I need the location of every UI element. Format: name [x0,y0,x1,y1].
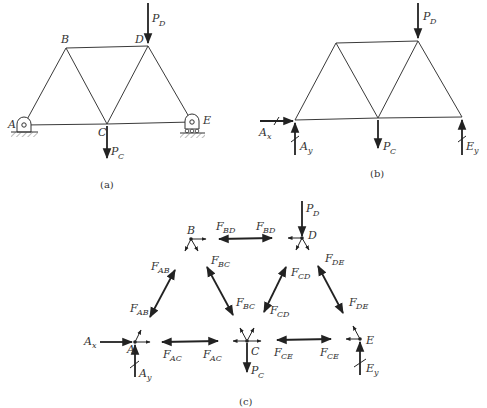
label-fde-bottom: F DE [348,296,368,311]
label-fac-left: F AC [162,348,182,363]
member-ac [24,124,107,125]
member-ce [378,117,462,118]
member-ce-force [277,339,331,340]
member-ab [295,43,336,120]
svg-text:AC: AC [209,354,222,363]
member-ac-force [162,341,218,342]
label-pd: P D [151,12,166,28]
label-fab-bottom: F AB [129,302,149,317]
member-de-force [318,266,343,313]
joint-label-b: B [60,33,69,46]
label-fbc-bottom: F BC [235,296,255,311]
caption-a: (a) [100,179,114,190]
joint-label-a: A [7,118,16,131]
label-ay: A y [299,140,313,155]
joint-label-d: D [134,33,144,46]
svg-text:y: y [146,373,152,382]
label-ey: E y [465,140,479,155]
svg-text:A: A [138,367,147,380]
label-pd: P D [422,10,437,26]
svg-text:C: C [258,371,264,380]
roller-support-icon [180,114,205,138]
member-bd-force [219,238,272,239]
label-ay: A y [138,367,152,382]
member-de [418,41,462,117]
truss-figure: A B C D E P D P C (a) A x A [0,0,487,408]
label-fbd-right: F BD [255,220,276,235]
panel-b-fbd: A x A y E y P D P C (b) [258,3,479,179]
panel-a-truss: A B C D E P D P C (a) [7,3,211,190]
svg-text:x: x [92,341,97,350]
svg-text:DE: DE [331,258,344,267]
member-cd [107,46,148,124]
svg-text:D: D [312,209,320,218]
member-bc [66,48,107,124]
label-ax: A x [83,335,97,350]
joint-c-fbd: C P C [233,328,264,380]
member-cd [378,41,418,118]
svg-text:CE: CE [327,352,339,361]
joint-label-c: C [251,345,260,358]
member-ac [295,118,378,120]
svg-text:C: C [390,147,396,156]
caption-c: (c) [239,396,253,407]
caption-b: (b) [370,168,384,179]
joint-d-fbd: D P D [288,201,320,250]
svg-text:y: y [307,146,313,155]
svg-text:AB: AB [136,308,149,317]
label-pc: P C [250,364,264,380]
svg-text:E: E [465,140,474,153]
svg-text:CE: CE [281,352,293,361]
joint-label-c: C [98,126,107,139]
joint-b-fbd: B [185,224,206,251]
label-ax: A x [258,126,272,141]
joint-e-fbd: E E y [346,326,379,377]
label-fde-top: F DE [324,252,344,267]
member-bd [66,46,148,48]
label-fab-top: F AB [150,260,170,275]
label-fbc-top: F BC [210,254,230,269]
svg-text:AC: AC [169,354,182,363]
label-fcd-bottom: F CD [269,304,290,319]
svg-text:BD: BD [262,226,276,235]
joint-label-b: B [186,224,195,237]
label-fce-left: F CE [273,346,293,361]
svg-text:A: A [299,140,308,153]
member-de [148,46,192,122]
svg-text:AB: AB [157,266,170,275]
member-ab [24,48,66,125]
joint-label-e: E [365,334,374,347]
svg-text:CD: CD [298,272,311,281]
svg-text:y: y [473,146,479,155]
member-ce [107,122,192,124]
label-fac-right: F AC [202,348,222,363]
label-pd: P D [305,202,320,218]
label-ey: E y [365,362,379,377]
member-ab-force [150,270,175,317]
svg-text:DE: DE [355,302,368,311]
joint-a-fbd: A A x A y [83,330,152,382]
joint-label-a: A [126,343,135,356]
svg-text:C: C [118,152,124,161]
svg-text:BD: BD [222,226,236,235]
svg-text:BC: BC [242,302,255,311]
svg-text:D: D [158,19,166,28]
svg-text:BC: BC [217,260,230,269]
member-bc-force [207,267,233,315]
svg-text:D: D [429,17,437,26]
svg-text:E: E [365,362,374,375]
svg-text:x: x [267,132,272,141]
svg-text:y: y [373,368,379,377]
member-bd [336,41,418,43]
svg-text:CD: CD [277,310,290,319]
panel-c-joint-fbds: B F BD F BD D P D F AB [83,201,379,407]
joint-label-e: E [202,114,211,127]
label-pc: P C [382,140,396,156]
label-fbd-left: F BD [215,220,236,235]
label-fcd-top: F CD [290,266,311,281]
svg-text:A: A [83,335,92,348]
label-fce-right: F CE [319,346,339,361]
svg-text:A: A [258,126,267,139]
member-bc [336,43,378,118]
joint-label-d: D [307,229,317,242]
